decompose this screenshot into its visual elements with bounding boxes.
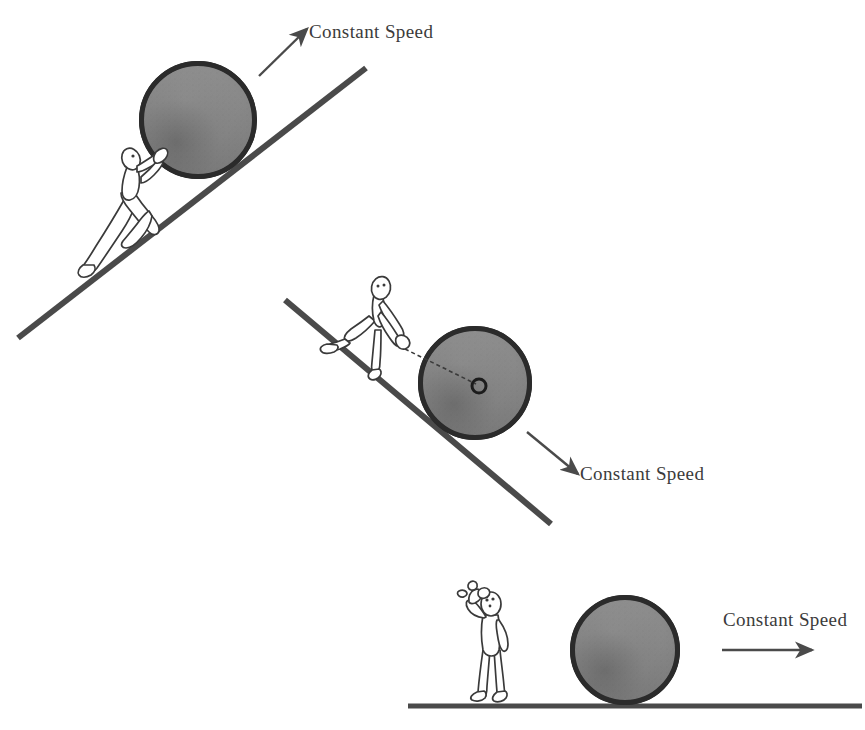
constant-speed-arrow-uphill xyxy=(259,29,307,76)
physics-diagram: Constant Speed xyxy=(0,0,865,730)
eye-dot-left xyxy=(377,285,380,288)
constant-speed-label-uphill: Constant Speed xyxy=(309,21,433,42)
eye-dot xyxy=(131,154,134,157)
eye-dot-right xyxy=(491,597,494,600)
eye-dot-left xyxy=(485,598,488,601)
mouth-dot xyxy=(489,605,492,608)
person-wiping-brow xyxy=(458,581,509,702)
eye-dot-right xyxy=(383,284,386,287)
constant-speed-label-level: Constant Speed xyxy=(723,609,847,630)
constant-speed-label-downhill: Constant Speed xyxy=(580,463,704,484)
panel-level: Constant Speed xyxy=(408,581,862,706)
panel-downhill: Constant Speed xyxy=(285,275,704,524)
diagram-canvas: Constant Speed xyxy=(0,0,865,730)
heavy-ball-level xyxy=(570,595,680,705)
constant-speed-arrow-downhill xyxy=(527,432,578,474)
